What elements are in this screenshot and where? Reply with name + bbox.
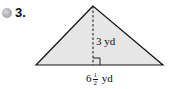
base-label: 612 yd (86, 72, 113, 87)
base-fraction: 12 (93, 72, 99, 87)
base-unit: yd (102, 72, 113, 84)
base-denominator: 2 (93, 80, 99, 87)
height-label: 3 yd (96, 35, 115, 47)
base-whole: 6 (86, 72, 92, 84)
